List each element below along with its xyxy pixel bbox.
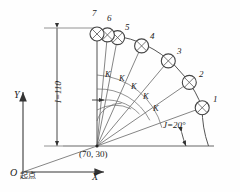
radial-lines [97,34,202,146]
hole-label-5: 5 [125,23,130,32]
hole-3 [161,54,175,68]
origin-label: O [10,168,17,178]
hole-2 [182,75,196,89]
increment-label-4: K [143,92,149,101]
diagram-canvas: 1 2 3 4 5 6 7 K K K K K I=110 J=20° (70,… [0,0,240,192]
diagram-svg [0,0,240,192]
hole-label-7: 7 [92,9,97,18]
increment-arc-a [97,75,162,128]
hole-4 [135,39,149,53]
hole-label-6: 6 [107,14,112,23]
start-angle-arc [182,132,186,146]
increment-label-1: K [105,70,111,79]
hole-1 [195,101,209,115]
hole-7 [90,27,104,41]
y-axis-label: Y [14,90,20,100]
radial-line-5 [97,38,118,146]
hole-pitch-arc [97,34,202,108]
increment-label-5: K [153,104,159,113]
array-center-point [95,144,98,147]
coordinate-axes [23,92,104,172]
increment-label-2: K [119,74,125,83]
increment-label-3: K [131,82,137,91]
origin-note-label: 起点 [20,172,36,180]
increment-arcs [97,75,162,128]
hole-label-4: 4 [150,32,155,41]
radius-dimension-label: I=110 [54,81,63,103]
hole-label-3: 3 [177,47,182,56]
radial-line-6 [97,35,107,146]
x-axis-label: X [92,172,98,182]
hole-label-2: 2 [199,70,204,79]
start-angle-label: J=20° [163,121,186,130]
center-coordinate-label: (70, 30) [79,150,108,159]
hole-label-1: 1 [213,95,218,104]
